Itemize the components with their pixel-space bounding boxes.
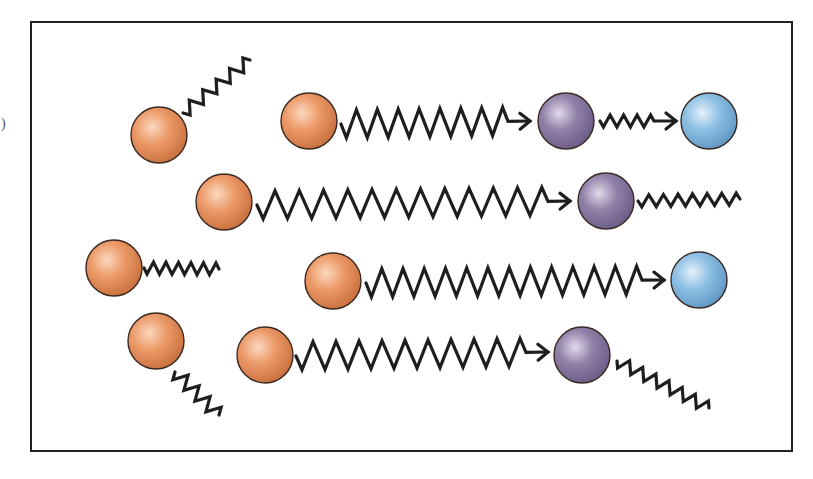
particle-group — [86, 93, 737, 383]
particle-blue-1 — [681, 93, 737, 149]
particle-orange-7 — [237, 327, 293, 383]
wave-p2-emit — [638, 193, 740, 207]
wave-p1-b1 — [600, 115, 676, 127]
wave-o4-emit — [144, 262, 219, 275]
wave-o7-p3 — [296, 338, 548, 370]
particle-purple-2 — [578, 173, 634, 229]
particle-blue-2 — [671, 252, 727, 308]
wave-group — [144, 58, 740, 415]
particle-orange-3 — [196, 174, 252, 230]
diagram-canvas: ) — [0, 0, 813, 479]
particle-orange-1 — [131, 107, 187, 163]
particle-orange-4 — [86, 240, 142, 296]
wave-o1-emit — [183, 58, 250, 115]
particle-orange-5 — [305, 253, 361, 309]
particle-purple-1 — [538, 93, 594, 149]
wave-o5-b2 — [366, 266, 664, 297]
margin-mark: ) — [1, 116, 6, 132]
wave-o3-p2 — [257, 187, 570, 219]
wave-o2-p1 — [341, 107, 530, 137]
wave-o6-emit — [173, 372, 221, 415]
diagram-frame — [31, 22, 792, 451]
particle-energy-transfer-diagram: ) — [0, 0, 813, 479]
particle-orange-2 — [281, 93, 337, 149]
particle-purple-3 — [554, 327, 610, 383]
wave-p3-emit — [617, 361, 709, 409]
particle-orange-6 — [128, 313, 184, 369]
